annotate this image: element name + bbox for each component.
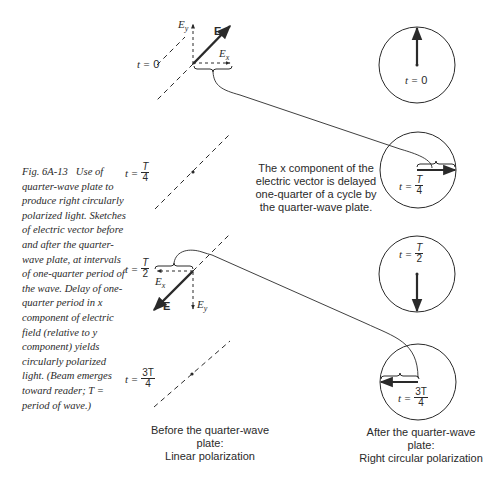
fraction: T4	[415, 175, 423, 196]
right-t0-label: t = 0	[405, 74, 427, 86]
t-value: 0	[421, 74, 427, 86]
fraction-denominator: 4	[418, 398, 424, 408]
left-column-label: Before the quarter-wave plate: Linear po…	[150, 424, 270, 463]
right-column-label-line2: Right circular polarization	[356, 452, 486, 465]
e-symbol: E	[214, 25, 221, 37]
fraction: 3T4	[414, 387, 428, 408]
t-prefix: t =	[398, 392, 411, 404]
e-symbol: E	[163, 300, 170, 312]
t-prefix: t =	[399, 248, 412, 260]
ex-label-t2: Ex	[155, 275, 165, 290]
ey-symbol: E	[178, 18, 185, 30]
t-prefix: t =	[137, 58, 150, 70]
fraction: T4	[141, 162, 149, 183]
ex-subscript: x	[162, 281, 166, 290]
ex-subscript: x	[226, 53, 230, 62]
e-label-t2: E	[163, 300, 170, 312]
right-t1-circle	[380, 132, 456, 208]
right-t1-label: t = T4	[399, 175, 423, 196]
fraction-denominator: 4	[143, 173, 149, 183]
left-t2-sketch	[154, 234, 418, 378]
ey-subscript: y	[204, 304, 208, 313]
ex-symbol: E	[155, 275, 162, 287]
fraction: 3T4	[141, 368, 155, 389]
e-label-t0: E	[214, 25, 221, 37]
fraction: T2	[415, 243, 423, 264]
fraction-denominator: 4	[145, 379, 151, 389]
figure-caption: Fig. 6A-13 Use of quarter-wave plate to …	[22, 165, 130, 413]
left-t0-sketch	[157, 24, 432, 168]
right-column-label-line1: After the quarter-wave plate:	[356, 426, 486, 452]
left-t0-label: t = 0	[137, 58, 159, 70]
fraction-denominator: 2	[143, 269, 149, 279]
right-t2-label: t = T2	[399, 243, 423, 264]
delay-note: The x component of the electric vector i…	[252, 162, 380, 214]
t-value: 0	[153, 58, 159, 70]
left-column-label-line2: Linear polarization	[150, 450, 270, 463]
ex-symbol: E	[219, 47, 226, 59]
left-t1-sketch	[155, 134, 230, 209]
t-prefix: t =	[405, 74, 418, 86]
figure-caption-text: Use of quarter-wave plate to produce rig…	[22, 166, 126, 411]
fraction-denominator: 4	[417, 186, 423, 196]
fraction: T2	[141, 258, 149, 279]
left-column-label-line1: Before the quarter-wave plate:	[150, 424, 270, 450]
right-t3-circle	[380, 344, 456, 420]
ex-label-t0: Ex	[219, 47, 229, 62]
right-t0-circle	[379, 27, 455, 103]
ey-label-t2: Ey	[197, 298, 207, 313]
t-prefix: t =	[399, 180, 412, 192]
fraction-denominator: 2	[417, 254, 423, 264]
ey-label-t0: Ey	[178, 18, 188, 33]
right-t3-label: t = 3T4	[398, 387, 428, 408]
left-t3-sketch	[154, 341, 230, 407]
ey-symbol: E	[197, 298, 204, 310]
ey-subscript: y	[185, 24, 189, 33]
figure-number: Fig. 6A-13	[22, 166, 68, 177]
right-column-label: After the quarter-wave plate: Right circ…	[356, 426, 486, 465]
